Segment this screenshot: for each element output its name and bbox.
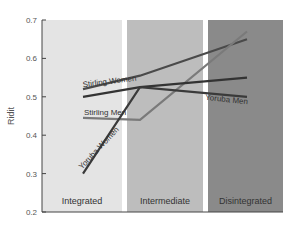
- zone-intermediate: [127, 20, 203, 212]
- y-axis-label: Ridit: [6, 107, 16, 126]
- label-stirling-men: Stirling Men: [84, 108, 126, 117]
- zone-label: Intermediate: [140, 196, 190, 206]
- y-tick-label: 0.2: [26, 208, 38, 217]
- y-tick-label: 0.6: [26, 54, 38, 63]
- y-tick-label: 0.3: [26, 170, 38, 179]
- line-chart: IntegratedIntermediateDisintegrated 0.20…: [0, 0, 300, 225]
- y-tick-label: 0.4: [26, 131, 38, 140]
- zone-label: Integrated: [62, 196, 103, 206]
- zone-label: Disintegrated: [219, 196, 272, 206]
- y-tick-label: 0.7: [26, 16, 38, 25]
- y-tick-label: 0.5: [26, 93, 38, 102]
